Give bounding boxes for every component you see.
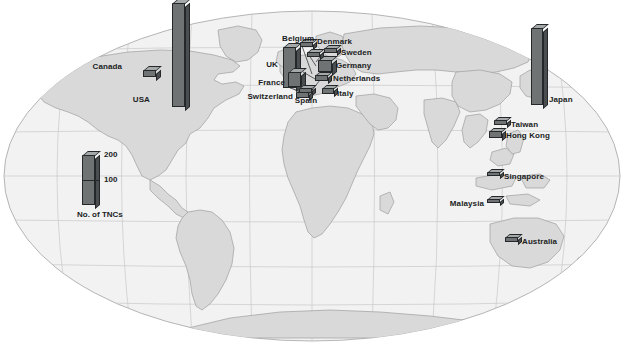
legend-midline bbox=[82, 180, 100, 181]
bar-france bbox=[288, 72, 301, 87]
label-denmark: Denmark bbox=[317, 37, 352, 46]
figure-canvas: USACanadaJapanUKFranceGermanyNetherlands… bbox=[0, 0, 625, 352]
bar-taiwan bbox=[494, 120, 507, 125]
legend-tick-200: 200 bbox=[104, 150, 117, 159]
bar-malaysia bbox=[487, 199, 500, 203]
bar-australia bbox=[505, 237, 518, 242]
map-legend: 200 100 No. of TNCs bbox=[82, 152, 142, 224]
bar-face-side bbox=[543, 28, 548, 109]
legend-caption: No. of TNCs bbox=[77, 210, 123, 219]
label-hong-kong: Hong Kong bbox=[506, 131, 550, 140]
label-australia: Australia bbox=[522, 237, 557, 246]
bar-face-front bbox=[288, 72, 301, 87]
bar-sweden bbox=[324, 48, 337, 53]
bar-spain bbox=[299, 88, 312, 93]
bar-singapore bbox=[487, 172, 500, 176]
label-japan: Japan bbox=[549, 95, 573, 104]
bar-japan bbox=[531, 28, 543, 105]
label-italy: Italy bbox=[337, 89, 354, 98]
bar-italy bbox=[322, 88, 334, 94]
label-spain: Spain bbox=[286, 96, 326, 105]
label-singapore: Singapore bbox=[504, 172, 544, 181]
label-taiwan: Taiwan bbox=[511, 120, 538, 129]
bar-denmark bbox=[307, 52, 320, 57]
bar-germany bbox=[318, 60, 332, 72]
bar-canada bbox=[143, 70, 156, 77]
legend-tick-100: 100 bbox=[104, 175, 117, 184]
bar-netherlands bbox=[315, 75, 328, 81]
label-switzerland: Switzerland bbox=[0, 92, 293, 101]
label-belgium: Belgium bbox=[282, 34, 314, 43]
label-malaysia: Malaysia bbox=[0, 199, 484, 208]
bar-face-front bbox=[143, 70, 156, 77]
bar-face-front bbox=[489, 131, 502, 138]
label-france: France bbox=[0, 78, 285, 87]
bar-hong-kong bbox=[489, 131, 502, 138]
label-netherlands: Netherlands bbox=[333, 74, 380, 83]
bar-face-front bbox=[531, 28, 543, 105]
label-sweden: Sweden bbox=[341, 48, 372, 57]
bar-face-front bbox=[318, 60, 332, 72]
label-uk: UK bbox=[0, 60, 278, 69]
label-germany: Germany bbox=[336, 61, 371, 70]
